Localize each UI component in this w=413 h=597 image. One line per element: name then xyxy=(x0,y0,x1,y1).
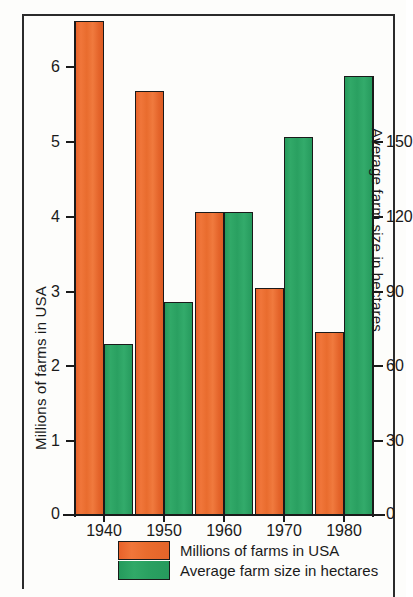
left-axis-line xyxy=(74,21,76,517)
bar-1950-farms xyxy=(135,91,164,515)
bar-1940-farms xyxy=(75,21,104,515)
x-tick-1950 xyxy=(163,508,165,522)
left-tick-4 xyxy=(66,216,75,218)
legend: Millions of farms in USA Average farm si… xyxy=(118,540,333,580)
left-tick-0 xyxy=(63,514,77,516)
x-category-1980: 1980 xyxy=(314,522,374,540)
left-tick-label-6: 6 xyxy=(38,59,60,75)
left-axis-title: Millions of farms in USA xyxy=(32,286,49,450)
left-tick-6 xyxy=(66,66,75,68)
right-tick-label-30: 30 xyxy=(386,433,404,449)
right-tick-label-90: 90 xyxy=(386,284,404,300)
x-tick-1940 xyxy=(103,508,105,522)
right-tick-label-0: 0 xyxy=(386,506,395,522)
right-tick-0 xyxy=(371,514,385,516)
legend-label-farms: Millions of farms in USA xyxy=(180,543,339,558)
left-tick-label-5: 5 xyxy=(38,134,60,150)
x-category-1950: 1950 xyxy=(134,522,194,540)
x-tick-1980 xyxy=(343,508,345,522)
right-tick-label-150: 150 xyxy=(386,134,413,150)
x-category-1970: 1970 xyxy=(254,522,314,540)
right-tick-label-60: 60 xyxy=(386,358,404,374)
x-category-1960: 1960 xyxy=(194,522,254,540)
x-category-1940: 1940 xyxy=(74,522,134,540)
legend-swatch-orange-icon xyxy=(118,541,170,560)
left-tick-5 xyxy=(66,141,75,143)
right-tick-label-120: 120 xyxy=(386,209,413,225)
right-tick-60 xyxy=(374,365,383,367)
x-tick-1960 xyxy=(223,508,225,522)
legend-item-size: Average farm size in hectares xyxy=(118,560,333,580)
legend-item-farms: Millions of farms in USA xyxy=(118,540,333,560)
x-tick-1970 xyxy=(283,508,285,522)
left-tick-1 xyxy=(66,440,75,442)
left-tick-label-4: 4 xyxy=(38,209,60,225)
right-axis-title: Average farm size in hectares xyxy=(369,128,386,332)
left-tick-2 xyxy=(66,365,75,367)
bar-1940-size xyxy=(104,344,133,515)
bar-1980-farms xyxy=(315,332,344,515)
legend-swatch-green-icon xyxy=(118,561,170,580)
bar-1970-farms xyxy=(255,288,284,515)
left-tick-3 xyxy=(66,291,75,293)
bar-1950-size xyxy=(164,302,193,515)
left-tick-label-0: 0 xyxy=(38,506,60,522)
bar-1960-size xyxy=(224,212,253,515)
bar-1970-size xyxy=(284,137,313,515)
legend-label-size: Average farm size in hectares xyxy=(180,563,378,578)
bar-1960-farms xyxy=(195,212,224,515)
right-tick-30 xyxy=(374,440,383,442)
